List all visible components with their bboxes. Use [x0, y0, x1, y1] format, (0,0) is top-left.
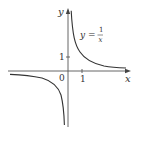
y-tick-label-1: 1 [59, 52, 65, 62]
y-axis-arrow-icon [66, 8, 70, 14]
function-label-denominator: x [99, 36, 103, 44]
function-label-lhs: y = [79, 30, 96, 40]
y-axis-label: y [57, 6, 64, 17]
reciprocal-function-graph: y x 0 1 1 y = 1 x [0, 0, 142, 141]
function-label: y = 1 x [79, 26, 103, 44]
function-label-numerator: 1 [99, 26, 103, 34]
curve-negative-branch [10, 74, 64, 125]
x-axis-label: x [125, 73, 131, 84]
origin-label: 0 [59, 73, 65, 83]
x-tick-label-1: 1 [80, 74, 86, 84]
